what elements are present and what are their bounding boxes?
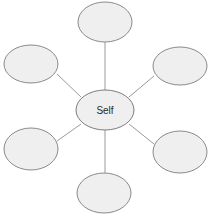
connector-center-to-lower-left [57, 124, 81, 141]
satellite-ellipse-top[interactable] [78, 2, 132, 42]
satellite-node-lower-left[interactable] [4, 128, 58, 170]
diagram-canvas: Self [0, 0, 210, 217]
center-node-self[interactable]: Self [76, 90, 134, 130]
satellite-node-lower-right[interactable] [153, 131, 207, 173]
satellite-node-bottom[interactable] [77, 173, 131, 213]
satellite-node-upper-right[interactable] [153, 47, 207, 85]
satellite-node-top[interactable] [78, 2, 132, 42]
satellite-ellipse-bottom[interactable] [77, 173, 131, 213]
connector-center-to-upper-right [129, 76, 154, 97]
center-label: Self [96, 105, 113, 116]
satellite-ellipse-upper-left[interactable] [4, 45, 58, 83]
satellite-ellipse-lower-right[interactable] [153, 131, 207, 173]
satellite-ellipse-upper-right[interactable] [153, 47, 207, 85]
satellite-node-upper-left[interactable] [4, 45, 58, 83]
connector-center-to-upper-left [57, 74, 81, 97]
connector-center-to-lower-right [129, 124, 154, 144]
radial-web-diagram: Self [0, 0, 210, 217]
satellite-ellipse-lower-left[interactable] [4, 128, 58, 170]
